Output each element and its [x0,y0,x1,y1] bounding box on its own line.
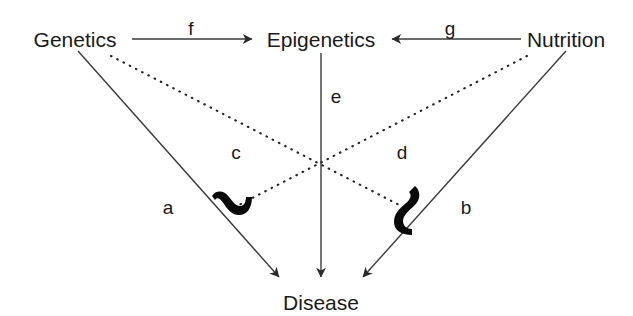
node-label-epigenetics: Epigenetics [267,28,376,51]
edge-c-line [111,56,405,208]
edge-b-line [363,51,566,277]
edge-d-line [233,56,527,208]
edge-label-f: f [188,18,194,39]
diagram-svg: Genetics Epigenetics Nutrition Disease a… [0,0,633,316]
edge-label-b: b [461,197,472,218]
edge-label-g: g [445,18,456,39]
edge-a-line [78,51,279,277]
edge-label-c: c [231,142,241,163]
node-label-nutrition: Nutrition [527,28,605,51]
edge-label-d: d [397,142,408,163]
edge-label-e: e [331,86,342,107]
node-label-genetics: Genetics [34,28,117,51]
edge-label-a: a [163,197,174,218]
node-label-disease: Disease [283,291,359,314]
diagram-canvas: Genetics Epigenetics Nutrition Disease a… [0,0,633,316]
line-hop-squiggle-left [212,192,252,215]
line-hop-squiggle-right [394,186,419,235]
